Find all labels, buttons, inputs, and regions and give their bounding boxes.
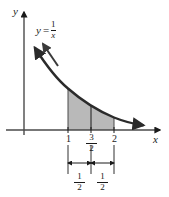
tick-fraction-denominator: 2 xyxy=(86,144,97,153)
dimension-left-numerator: 1 xyxy=(74,172,85,181)
dimension-left-denominator: 2 xyxy=(74,183,85,192)
equation-equals-sign: = xyxy=(43,25,49,36)
equation-fraction: 1 x xyxy=(51,20,56,41)
dimension-right-numerator: 1 xyxy=(97,172,108,181)
equation-numerator: 1 xyxy=(51,20,56,29)
figure-container: y x y = 1 x 1 3 2 2 1 2 1 2 xyxy=(0,0,169,197)
graph-canvas xyxy=(0,0,169,197)
curve-equation-label: y = 1 x xyxy=(36,20,56,41)
y-axis-label: y xyxy=(13,6,18,17)
x-tick-label-2: 2 xyxy=(110,134,119,144)
x-tick-label-three-halves: 3 2 xyxy=(86,133,97,154)
x-axis-label: x xyxy=(153,134,158,145)
equation-lhs: y xyxy=(36,25,41,36)
dimension-right-denominator: 2 xyxy=(97,183,108,192)
equation-denominator: x xyxy=(51,31,56,40)
dimension-label-left: 1 2 xyxy=(74,172,85,193)
dimension-label-right: 1 2 xyxy=(97,172,108,193)
tick-fraction-numerator: 3 xyxy=(86,133,97,142)
x-tick-label-1: 1 xyxy=(64,134,73,144)
